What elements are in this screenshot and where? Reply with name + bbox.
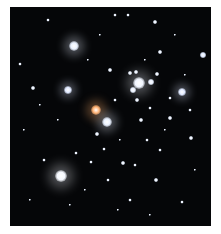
star (168, 116, 172, 120)
star (57, 119, 59, 121)
star (178, 88, 186, 96)
star (200, 52, 206, 58)
star (47, 19, 50, 22)
star (84, 189, 86, 191)
star (108, 68, 112, 72)
star (154, 178, 158, 182)
star (43, 159, 46, 162)
star (149, 214, 151, 216)
star (23, 129, 25, 131)
star (155, 72, 159, 76)
star (19, 63, 22, 66)
star (103, 148, 106, 151)
star (153, 20, 157, 24)
star-cluster-photo (10, 7, 211, 226)
star (102, 117, 112, 127)
star (146, 139, 149, 142)
star (31, 86, 35, 90)
star (174, 34, 176, 36)
star (95, 132, 99, 136)
star (158, 50, 162, 54)
star (181, 201, 184, 204)
star (114, 99, 117, 102)
star (99, 34, 101, 36)
star (55, 170, 67, 182)
star (189, 136, 193, 140)
star (90, 161, 93, 164)
star (164, 129, 166, 131)
star (129, 199, 132, 202)
star (119, 139, 121, 141)
star (75, 152, 78, 155)
star (134, 164, 137, 167)
star (114, 14, 117, 17)
star (139, 118, 143, 122)
star (144, 59, 146, 61)
star (130, 87, 136, 93)
star (64, 86, 72, 94)
star (39, 104, 41, 106)
star (29, 199, 31, 201)
star (169, 97, 172, 100)
star (149, 107, 152, 110)
star (135, 98, 139, 102)
star (69, 204, 71, 206)
star (127, 14, 130, 17)
star (128, 71, 132, 75)
star (87, 59, 89, 61)
star (91, 105, 101, 115)
star (159, 149, 162, 152)
star (117, 209, 119, 211)
star (69, 41, 79, 51)
star (107, 179, 110, 182)
star (134, 70, 138, 74)
star (121, 161, 125, 165)
star (189, 109, 192, 112)
star (194, 169, 196, 171)
star (148, 79, 154, 85)
star (184, 74, 186, 76)
